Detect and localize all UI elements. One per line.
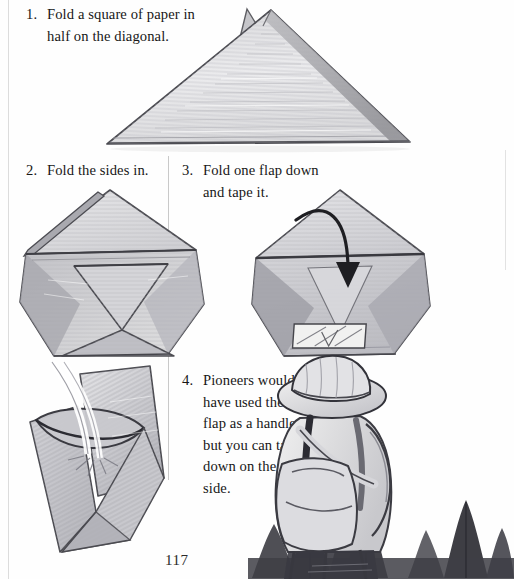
step-3-illustration-flap-down-and-tape: [252, 184, 442, 364]
page-number: 117: [165, 552, 188, 569]
page-margin-line-right: [505, 150, 506, 270]
step-2-number: 2.: [26, 160, 37, 182]
step-3-line-1: Fold one flap down: [203, 160, 347, 182]
step-2-line-1: Fold the sides in.: [47, 160, 176, 182]
step-2-instruction: 2. Fold the sides in.: [26, 160, 176, 182]
step-1-number: 1.: [26, 4, 37, 26]
step-2-illustration-sides-folded-in: [18, 184, 218, 364]
step-3-number: 3.: [182, 160, 193, 182]
step-4-number: 4.: [182, 370, 193, 392]
wide-brim-hat-icon: [278, 356, 386, 418]
page-margin-line-left: [8, 0, 9, 579]
step-4-illustration-paper-cup-with-water: [18, 362, 178, 562]
step-1-illustration-folded-triangle: [95, 0, 425, 155]
tape-patch-icon: [293, 324, 367, 348]
book-page: 1. Fold a square of paper in half on the…: [0, 0, 514, 579]
hiker-with-pine-trees-illustration: [248, 352, 514, 579]
hiker-figure-icon: [276, 356, 392, 579]
step-2-text: Fold the sides in.: [47, 160, 176, 182]
